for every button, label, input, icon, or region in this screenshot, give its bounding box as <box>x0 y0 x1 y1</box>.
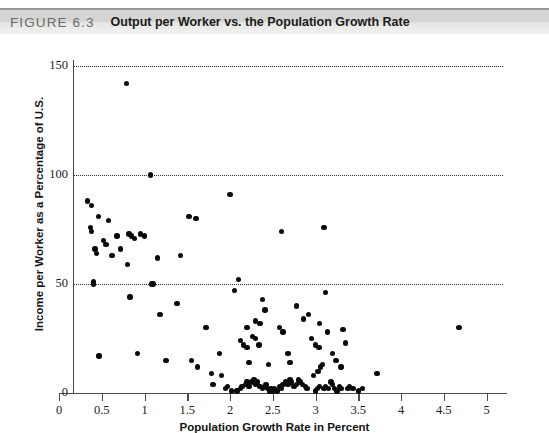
data-point <box>360 386 365 391</box>
data-point <box>256 342 261 347</box>
data-point <box>127 294 132 299</box>
x-tick-label-3.5: 3.5 <box>338 403 378 418</box>
gridline-y-100 <box>74 175 503 176</box>
data-point <box>114 233 119 238</box>
y-axis-line <box>73 60 74 393</box>
data-point <box>262 307 267 312</box>
data-point <box>118 246 123 251</box>
data-point <box>287 360 292 365</box>
figure-number-label: FIGURE 6.3 <box>10 15 95 30</box>
x-tick-mark-1.5 <box>187 394 188 401</box>
data-point <box>91 279 96 284</box>
data-point <box>210 382 215 387</box>
data-point <box>103 242 108 247</box>
data-point <box>266 362 271 367</box>
data-point <box>304 386 309 391</box>
data-point <box>89 229 94 234</box>
gridline-y-150 <box>74 66 503 67</box>
data-point <box>253 336 258 341</box>
x-tick-mark-0.5 <box>102 394 103 401</box>
y-tick-label-0: 0 <box>38 385 68 400</box>
data-point <box>285 351 290 356</box>
data-point <box>174 301 179 306</box>
data-point <box>135 351 140 356</box>
data-point <box>257 321 262 326</box>
data-point <box>217 351 222 356</box>
data-point <box>338 364 343 369</box>
data-point <box>321 225 326 230</box>
data-point <box>227 192 232 197</box>
x-tick-label-0: 0 <box>39 403 79 418</box>
data-point <box>325 329 330 334</box>
x-tick-mark-0 <box>59 394 60 401</box>
scatter-chart: 050100150 00.511.522.533.544.55 Income p… <box>0 40 549 433</box>
data-point <box>317 321 322 326</box>
data-point <box>236 277 241 282</box>
data-point <box>109 253 114 258</box>
data-point <box>163 358 168 363</box>
x-tick-label-5: 5 <box>467 403 507 418</box>
data-point <box>244 325 249 330</box>
data-point <box>203 325 208 330</box>
data-point <box>96 353 101 358</box>
y-axis-title: Income per Worker as a Percentage of U.S… <box>33 79 45 349</box>
x-tick-label-3: 3 <box>296 403 336 418</box>
x-tick-label-0.5: 0.5 <box>82 403 122 418</box>
x-tick-label-4: 4 <box>381 403 421 418</box>
data-point <box>333 358 338 363</box>
data-point <box>280 329 285 334</box>
data-point <box>279 229 284 234</box>
figure-title-label: Output per Worker vs. the Population Gro… <box>111 15 410 29</box>
x-tick-mark-3.5 <box>358 394 359 401</box>
x-tick-mark-4 <box>401 394 402 401</box>
data-point <box>374 371 379 376</box>
data-point <box>316 345 321 350</box>
data-point <box>456 325 461 330</box>
x-tick-mark-5 <box>487 394 488 401</box>
x-tick-label-1: 1 <box>125 403 165 418</box>
data-point <box>193 216 198 221</box>
data-point <box>142 233 147 238</box>
data-point <box>89 203 94 208</box>
data-point <box>219 373 224 378</box>
data-point <box>306 312 311 317</box>
data-point <box>320 362 325 367</box>
figure-header-bar: FIGURE 6.3 Output per Worker vs. the Pop… <box>0 8 549 34</box>
data-point <box>343 340 348 345</box>
data-point <box>150 281 155 286</box>
data-point <box>189 358 194 363</box>
x-tick-mark-1 <box>145 394 146 401</box>
x-tick-mark-2.5 <box>273 394 274 401</box>
x-axis-line <box>59 393 507 394</box>
data-point <box>246 360 251 365</box>
data-point <box>106 218 111 223</box>
data-point <box>244 345 249 350</box>
data-point <box>178 253 183 258</box>
x-tick-label-2.5: 2.5 <box>253 403 293 418</box>
data-point <box>155 255 160 260</box>
data-point <box>96 214 101 219</box>
data-point <box>125 262 130 267</box>
data-point <box>124 81 129 86</box>
data-point <box>326 386 331 391</box>
data-point <box>301 316 306 321</box>
x-tick-mark-4.5 <box>444 394 445 401</box>
data-point <box>330 351 335 356</box>
data-point <box>323 290 328 295</box>
data-point <box>195 364 200 369</box>
x-tick-mark-2 <box>230 394 231 401</box>
x-tick-label-2: 2 <box>210 403 250 418</box>
gridline-y-50 <box>74 284 503 285</box>
data-point <box>338 386 343 391</box>
data-point <box>186 214 191 219</box>
x-tick-mark-3 <box>316 394 317 401</box>
data-point <box>132 236 137 241</box>
data-point <box>232 288 237 293</box>
data-point <box>94 251 99 256</box>
data-point <box>294 303 299 308</box>
data-point <box>340 327 345 332</box>
data-point <box>309 336 314 341</box>
y-tick-label-150: 150 <box>38 58 68 73</box>
data-point <box>260 297 265 302</box>
x-tick-label-4.5: 4.5 <box>424 403 464 418</box>
